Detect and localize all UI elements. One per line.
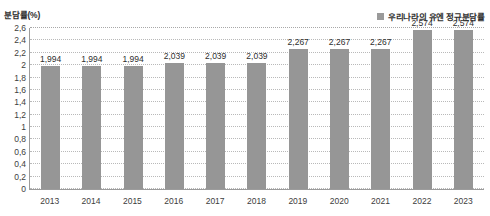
- bar-value-label: 1,994: [81, 54, 102, 64]
- bar-value-label: 2,267: [288, 37, 309, 47]
- plot-area: 00,20,40,60,811,21,41,61,822,22,42,6 1,9…: [29, 28, 484, 190]
- bar-slot: 1,994: [113, 28, 154, 189]
- bar-slot: 2,574: [401, 28, 442, 189]
- y-axis-tick-label: 2,6: [14, 23, 26, 33]
- y-axis-title: 분담률(%): [4, 8, 40, 20]
- x-axis-tick-label: 2018: [236, 191, 277, 211]
- bar-value-label: 2,574: [411, 18, 432, 28]
- bar-slot: 1,994: [71, 28, 112, 189]
- bar[interactable]: 2,267: [289, 49, 308, 189]
- bar[interactable]: 2,574: [454, 30, 473, 189]
- bar-slot: 2,574: [443, 28, 484, 189]
- bar-slot: 1,994: [30, 28, 71, 189]
- x-axis-tick-labels: 2013201420152016201720182019202020212022…: [29, 191, 484, 211]
- y-axis-tick-label: 0,6: [14, 147, 26, 157]
- bar[interactable]: 2,267: [330, 49, 349, 189]
- y-axis-tick-label: 1,2: [14, 110, 26, 120]
- bar-value-label: 1,994: [123, 54, 144, 64]
- bar[interactable]: 2,267: [371, 49, 390, 189]
- legend-swatch-icon: [377, 13, 384, 20]
- bar-value-label: 1,994: [40, 54, 61, 64]
- x-axis-tick-label: 2019: [277, 191, 318, 211]
- x-axis-tick-label: 2014: [70, 191, 111, 211]
- bar-slot: 2,039: [154, 28, 195, 189]
- bar-value-label: 2,039: [246, 51, 267, 61]
- bar[interactable]: 2,039: [206, 63, 225, 189]
- x-axis-tick-label: 2020: [319, 191, 360, 211]
- bar-slot: 2,039: [236, 28, 277, 189]
- y-axis-tick-label: 1,6: [14, 85, 26, 95]
- bar-slot: 2,267: [278, 28, 319, 189]
- bar-value-label: 2,267: [370, 37, 391, 47]
- x-axis-tick-label: 2013: [29, 191, 70, 211]
- bar-slot: 2,267: [360, 28, 401, 189]
- bar[interactable]: 2,574: [413, 30, 432, 189]
- y-axis-tick-label: 0,2: [14, 172, 26, 182]
- bar[interactable]: 1,994: [82, 66, 101, 189]
- x-axis-tick-label: 2017: [194, 191, 235, 211]
- bar-value-label: 2,574: [453, 18, 474, 28]
- x-axis-tick-label: 2016: [153, 191, 194, 211]
- bar-value-label: 2,039: [164, 51, 185, 61]
- y-axis-tick-label: 2,4: [14, 35, 26, 45]
- bar-value-label: 2,039: [205, 51, 226, 61]
- x-axis-tick-label: 2023: [443, 191, 484, 211]
- bar-slot: 2,267: [319, 28, 360, 189]
- bar-series: 1,9941,9941,9942,0392,0392,0392,2672,267…: [30, 28, 484, 189]
- y-axis-tick-label: 0,8: [14, 134, 26, 144]
- bar-chart: 분담률(%) 우리나라의 유엔 정규분담률 00,20,40,60,811,21…: [0, 0, 490, 216]
- x-axis-tick-label: 2022: [401, 191, 442, 211]
- bar-value-label: 2,267: [329, 37, 350, 47]
- y-axis-tick-label: 2: [21, 60, 26, 70]
- bar[interactable]: 1,994: [124, 66, 143, 189]
- x-axis-tick-label: 2015: [112, 191, 153, 211]
- x-axis-tick-label: 2021: [360, 191, 401, 211]
- y-axis-tick-label: 1: [21, 122, 26, 132]
- bar-slot: 2,039: [195, 28, 236, 189]
- y-axis-tick-label: 0: [21, 184, 26, 194]
- y-axis-tick-label: 2,2: [14, 48, 26, 58]
- y-axis-tick-label: 1,8: [14, 73, 26, 83]
- y-axis-tick-label: 1,4: [14, 97, 26, 107]
- bar[interactable]: 2,039: [247, 63, 266, 189]
- bar[interactable]: 1,994: [41, 66, 60, 189]
- y-axis-tick-label: 0,4: [14, 159, 26, 169]
- bar[interactable]: 2,039: [165, 63, 184, 189]
